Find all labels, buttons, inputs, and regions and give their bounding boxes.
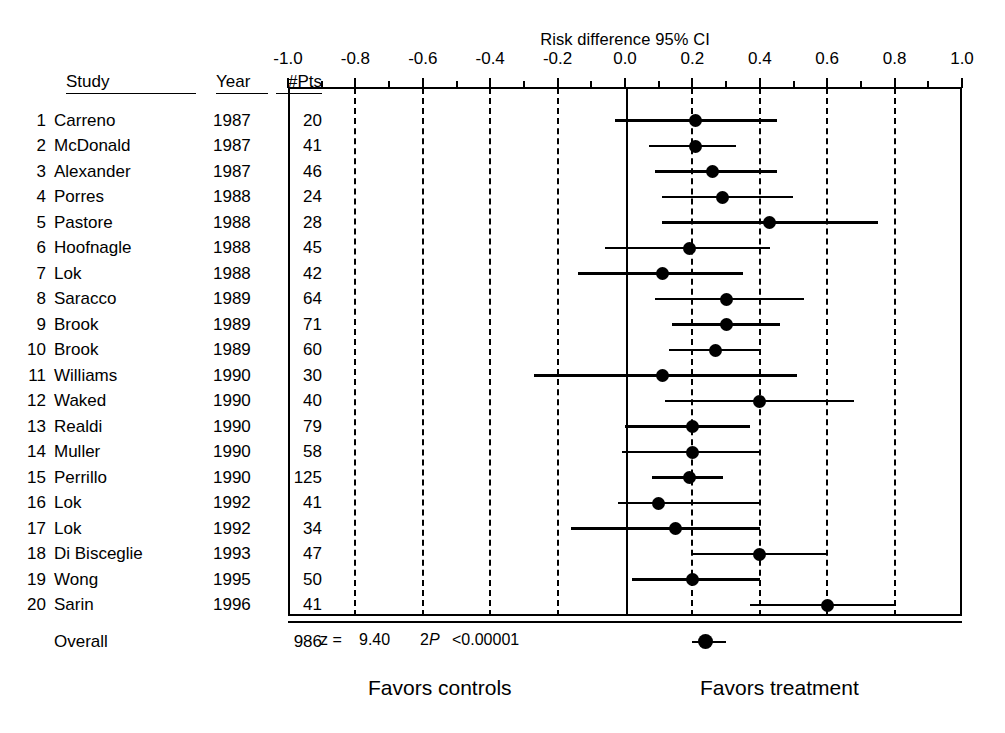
study-name: Lok xyxy=(54,261,81,287)
gridline-dashed xyxy=(354,88,356,616)
favors-controls-label: Favors controls xyxy=(368,676,512,700)
axis-tick-label: 1.0 xyxy=(927,49,997,69)
study-name: Perrillo xyxy=(54,465,107,491)
row-index: 8 xyxy=(24,286,46,312)
study-name: Lok xyxy=(54,490,81,516)
axis-tick-label: 0.6 xyxy=(792,49,862,69)
row-index: 14 xyxy=(24,439,46,465)
effect-estimate-marker xyxy=(720,318,733,331)
effect-estimate-marker xyxy=(683,471,696,484)
chart-title: Risk difference 95% CI xyxy=(288,30,962,49)
study-patients: 28 xyxy=(258,210,322,236)
study-patients: 64 xyxy=(258,286,322,312)
overall-label: Overall xyxy=(54,629,108,655)
effect-estimate-marker xyxy=(706,165,719,178)
effect-estimate-marker xyxy=(686,446,699,459)
study-name: Muller xyxy=(54,439,100,465)
column-header-year: Year xyxy=(216,72,268,94)
gridline-dashed xyxy=(691,88,693,616)
study-patients: 40 xyxy=(258,388,322,414)
study-name: Williams xyxy=(54,363,117,389)
study-patients: 41 xyxy=(258,592,322,618)
gridline-dashed xyxy=(557,88,559,616)
row-index: 16 xyxy=(24,490,46,516)
gridline-dashed xyxy=(422,88,424,616)
effect-estimate-marker xyxy=(686,573,699,586)
study-year: 1989 xyxy=(213,312,257,338)
study-year: 1990 xyxy=(213,465,257,491)
stat-z-value: 9.40 xyxy=(359,631,390,649)
confidence-interval-line xyxy=(618,502,760,504)
row-index: 5 xyxy=(24,210,46,236)
favors-treatment-label: Favors treatment xyxy=(700,676,859,700)
row-index: 17 xyxy=(24,516,46,542)
study-year: 1987 xyxy=(213,133,257,159)
column-header-study: Study xyxy=(66,72,196,94)
effect-estimate-marker xyxy=(669,522,682,535)
study-patients: 58 xyxy=(258,439,322,465)
effect-estimate-marker xyxy=(716,191,729,204)
study-name: Di Bisceglie xyxy=(54,541,143,567)
axis-tick-label: 0.2 xyxy=(657,49,727,69)
forest-plot-figure: Risk difference 95% CI -1.0-0.8-0.6-0.4-… xyxy=(0,0,1005,733)
effect-estimate-marker xyxy=(753,548,766,561)
axis-tick-label: 0.4 xyxy=(725,49,795,69)
row-index: 15 xyxy=(24,465,46,491)
study-patients: 71 xyxy=(258,312,322,338)
study-year: 1988 xyxy=(213,261,257,287)
row-index: 2 xyxy=(24,133,46,159)
study-year: 1992 xyxy=(213,516,257,542)
study-name: Carreno xyxy=(54,108,115,134)
axis-tick-label: 0.8 xyxy=(860,49,930,69)
effect-estimate-marker xyxy=(753,395,766,408)
plot-frame-right xyxy=(960,88,962,616)
study-name: Wong xyxy=(54,567,98,593)
axis-tick-label: -0.8 xyxy=(320,49,390,69)
study-name: Pastore xyxy=(54,210,113,236)
effect-estimate-marker xyxy=(709,344,722,357)
row-index: 4 xyxy=(24,184,46,210)
stat-p-italic: P xyxy=(429,631,440,648)
study-patients: 79 xyxy=(258,414,322,440)
study-year: 1988 xyxy=(213,210,257,236)
study-patients: 47 xyxy=(258,541,322,567)
row-index: 11 xyxy=(24,363,46,389)
stat-z-label: z = xyxy=(320,631,342,649)
study-name: Porres xyxy=(54,184,104,210)
study-year: 1993 xyxy=(213,541,257,567)
study-year: 1988 xyxy=(213,184,257,210)
gridline-dashed xyxy=(894,88,896,616)
row-index: 13 xyxy=(24,414,46,440)
study-patients: 45 xyxy=(258,235,322,261)
study-year: 1989 xyxy=(213,337,257,363)
study-patients: 46 xyxy=(258,159,322,185)
effect-estimate-marker xyxy=(689,140,702,153)
null-effect-line xyxy=(626,88,628,616)
study-year: 1996 xyxy=(213,592,257,618)
plot-frame-bottom xyxy=(288,614,962,616)
effect-estimate-marker xyxy=(686,420,699,433)
overall-separator xyxy=(288,621,962,623)
stat-p-label: 2P xyxy=(420,631,440,649)
row-index: 18 xyxy=(24,541,46,567)
study-patients: 41 xyxy=(258,490,322,516)
study-patients: 50 xyxy=(258,567,322,593)
study-year: 1987 xyxy=(213,159,257,185)
study-year: 1990 xyxy=(213,363,257,389)
gridline-dashed xyxy=(826,88,828,616)
axis-tick-label: -1.0 xyxy=(253,49,323,69)
study-year: 1990 xyxy=(213,439,257,465)
axis-tick-label: -0.2 xyxy=(523,49,593,69)
overall-effect-estimate-marker xyxy=(698,634,713,649)
stat-p-prefix: 2 xyxy=(420,631,429,648)
study-name: Lok xyxy=(54,516,81,542)
row-index: 20 xyxy=(24,592,46,618)
study-year: 1995 xyxy=(213,567,257,593)
stat-p-value: <0.00001 xyxy=(452,631,519,649)
axis-top-line xyxy=(288,87,962,89)
effect-estimate-marker xyxy=(652,497,665,510)
study-name: Alexander xyxy=(54,159,131,185)
study-name: Brook xyxy=(54,312,98,338)
row-index: 9 xyxy=(24,312,46,338)
study-name: Brook xyxy=(54,337,98,363)
